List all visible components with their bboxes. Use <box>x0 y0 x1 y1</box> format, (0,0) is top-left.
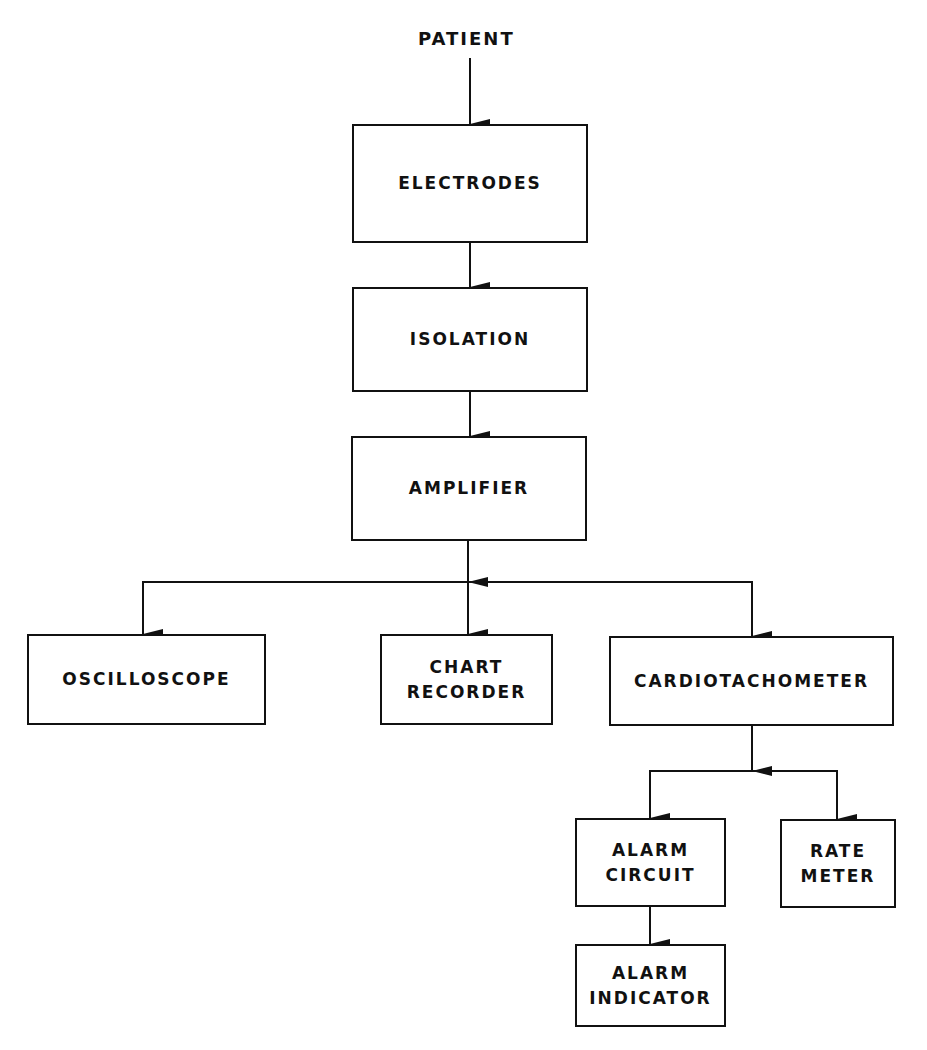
block-amplifier-label: AMPLIFIER <box>409 476 529 501</box>
block-rate-meter: RATE METER <box>780 819 896 908</box>
block-electrodes: ELECTRODES <box>352 124 588 243</box>
block-alarm-circuit: ALARM CIRCUIT <box>575 818 726 907</box>
block-oscilloscope: OSCILLOSCOPE <box>27 634 266 725</box>
block-chart-recorder-line1: CHART <box>430 655 504 680</box>
block-cardiotachometer: CARDIOTACHOMETER <box>609 636 894 726</box>
block-amplifier: AMPLIFIER <box>351 436 587 541</box>
block-alarm-indicator-line2: INDICATOR <box>589 986 711 1011</box>
block-chart-recorder: CHART RECORDER <box>380 634 553 725</box>
block-electrodes-label: ELECTRODES <box>398 171 542 196</box>
block-cardiotachometer-label: CARDIOTACHOMETER <box>634 669 869 694</box>
block-alarm-circuit-line2: CIRCUIT <box>605 863 695 888</box>
block-alarm-indicator-line1: ALARM <box>612 961 689 986</box>
branch-bus <box>143 582 752 636</box>
block-isolation-label: ISOLATION <box>410 327 530 352</box>
block-chart-recorder-line2: RECORDER <box>407 680 527 705</box>
patient-label: PATIENT <box>418 28 515 49</box>
block-rate-meter-line2: METER <box>801 864 876 889</box>
block-isolation: ISOLATION <box>352 287 588 392</box>
block-rate-meter-line1: RATE <box>810 839 866 864</box>
branch-bus-2 <box>650 771 837 819</box>
block-alarm-indicator: ALARM INDICATOR <box>575 944 726 1027</box>
block-oscilloscope-label: OSCILLOSCOPE <box>62 667 230 692</box>
block-alarm-circuit-line1: ALARM <box>612 838 689 863</box>
